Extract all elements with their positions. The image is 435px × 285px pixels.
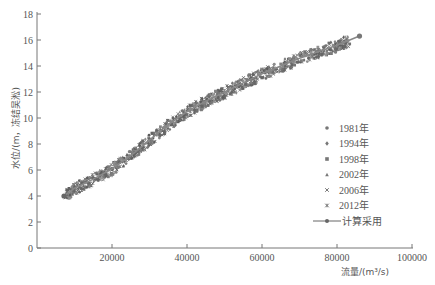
- y-tick-label: 12: [23, 87, 33, 98]
- x-tick-label: 40000: [175, 252, 200, 263]
- legend-item: 1981年: [325, 122, 369, 134]
- legend-item: 计算采用: [313, 215, 382, 227]
- y-tick-label: 14: [23, 61, 33, 72]
- scatter-points: [64, 35, 351, 200]
- legend-label: 计算采用: [342, 215, 382, 227]
- legend-item: 2002年: [325, 168, 369, 180]
- x-tick-label: 60000: [250, 252, 275, 263]
- y-tick-label: 2: [28, 217, 33, 228]
- legend: 1981年1994年1998年2002年2006年2012年计算采用: [313, 122, 382, 227]
- legend-item: 1998年: [325, 153, 369, 165]
- y-tick-label: 0: [28, 243, 33, 254]
- x-tick-label: 20000: [100, 252, 125, 263]
- x-axis-ticks: 20000400006000080000100000: [100, 244, 428, 263]
- legend-label: 2012年: [339, 199, 369, 211]
- legend-label: 1981年: [339, 122, 369, 134]
- x-tick-label: 100000: [397, 252, 427, 263]
- x-tick-label: 80000: [325, 252, 350, 263]
- rating-curve-chart: 024681012141618 200004000060000800001000…: [0, 0, 435, 285]
- y-tick-label: 4: [28, 191, 33, 202]
- y-axis-ticks: 024681012141618: [23, 9, 41, 254]
- legend-label: 1998年: [339, 153, 369, 165]
- legend-item: 2006年: [325, 184, 369, 196]
- y-tick-label: 18: [23, 9, 33, 20]
- legend-label: 2002年: [339, 168, 369, 180]
- y-tick-label: 6: [28, 165, 33, 176]
- y-tick-label: 8: [28, 139, 33, 150]
- y-tick-label: 16: [23, 35, 33, 46]
- legend-item: 1994年: [325, 137, 369, 149]
- x-axis-title: 流量/(m³/s): [341, 266, 389, 277]
- y-tick-label: 10: [23, 113, 33, 124]
- y-axis-title: 水位/(m，冻结吴淞): [10, 87, 21, 169]
- legend-label: 1994年: [339, 137, 369, 149]
- legend-label: 2006年: [339, 184, 369, 196]
- legend-item: 2012年: [325, 199, 369, 211]
